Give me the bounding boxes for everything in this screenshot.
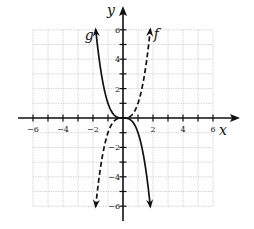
x-axis-label: x	[219, 122, 227, 138]
x-tick-label: −6	[27, 125, 39, 134]
x-tick-label: −2	[87, 125, 99, 134]
x-tick-label: −4	[57, 125, 69, 134]
arrowhead-icon	[146, 27, 153, 36]
x-tick-label: 4	[180, 125, 185, 134]
arrowhead-icon	[93, 199, 100, 208]
y-tick-label: −2	[108, 143, 120, 152]
y-tick-label: −4	[108, 173, 120, 182]
x-tick-label: 2	[150, 125, 155, 134]
curve-label-f: f	[153, 26, 162, 42]
graph: −6−4−2246642−2−4−6xygf	[0, 0, 254, 229]
y-axis-label: y	[106, 2, 116, 18]
y-tick-label: −6	[108, 202, 120, 211]
curve-label-g: g	[85, 27, 94, 43]
y-tick-label: 6	[115, 26, 120, 35]
axes	[18, 6, 240, 221]
y-tick-label: 2	[115, 85, 120, 94]
labels: −6−4−2246642−2−4−6xygf	[27, 2, 227, 211]
x-tick-label: 6	[210, 125, 215, 134]
y-tick-label: 4	[115, 55, 120, 64]
